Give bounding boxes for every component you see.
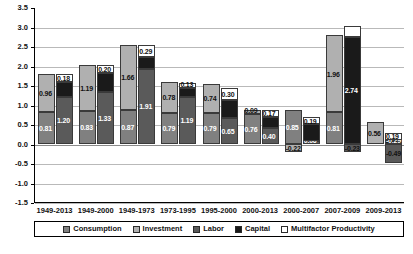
y-tick-mark <box>31 164 34 165</box>
bar-right: 0.650.30 <box>221 7 238 202</box>
data-label: 0.20 <box>98 66 111 73</box>
y-tick-label: 3.0 <box>0 24 28 32</box>
y-tick-label: 3.5 <box>0 4 28 12</box>
bar-left: 0.790.78 <box>161 7 178 202</box>
y-tick-mark <box>31 145 34 146</box>
legend-item[interactable]: Multifactor Productivity <box>281 225 375 233</box>
bar-left: 0.85-0.22 <box>285 7 302 202</box>
y-tick-label: -0.5 <box>0 160 28 168</box>
bar-right: 1.190.13 <box>179 7 196 202</box>
y-tick-label: 2.0 <box>0 63 28 71</box>
data-label: -0.22 <box>286 145 301 152</box>
y-tick-label: -1.5 <box>0 199 28 207</box>
data-label: 1.19 <box>180 117 193 124</box>
bar-left: 0.56 <box>367 7 384 202</box>
data-label: 0.30 <box>222 91 235 98</box>
bar-right: -0.49-0.290.19 <box>385 7 402 202</box>
data-label: 1.96 <box>327 71 340 78</box>
y-tick-label: 1.0 <box>0 102 28 110</box>
data-label: -0.49 <box>386 150 401 157</box>
data-label: -0.23 <box>345 145 360 152</box>
legend-item[interactable]: Consumption <box>63 225 121 233</box>
data-label: 0.85 <box>286 124 299 131</box>
y-tick-mark <box>31 47 34 48</box>
bar-segment-capital <box>303 124 320 141</box>
data-label: 0.18 <box>57 75 70 82</box>
y-tick-mark <box>31 203 34 204</box>
y-tick-mark <box>31 184 34 185</box>
data-label: 0.65 <box>222 128 235 135</box>
data-label: 0.13 <box>180 81 193 88</box>
data-label: 0.17 <box>263 110 276 117</box>
legend-label: Investment <box>143 225 183 233</box>
legend-swatch-icon <box>193 226 200 233</box>
y-tick-mark <box>31 106 34 107</box>
gridline <box>35 203 404 204</box>
plot-area: 0.810.961.200.180.831.191.330.200.871.66… <box>34 8 404 203</box>
y-tick-label: 0.5 <box>0 121 28 129</box>
bar-segment-capital <box>97 73 114 92</box>
data-label: 0.79 <box>162 125 175 132</box>
bar-right: -0.232.74 <box>344 7 361 202</box>
legend-swatch-icon <box>235 226 242 233</box>
bar-left: 0.871.66 <box>120 7 137 202</box>
bar-right: 1.330.20 <box>97 7 114 202</box>
chart-legend: ConsumptionInvestmentLaborCapitalMultifa… <box>34 221 404 237</box>
legend-label: Multifactor Productivity <box>291 225 375 233</box>
data-label: 0.81 <box>327 125 340 132</box>
data-label: 0.74 <box>204 95 217 102</box>
y-tick-label: 2.5 <box>0 43 28 51</box>
legend-label: Capital <box>245 225 270 233</box>
y-tick-mark <box>31 67 34 68</box>
legend-item[interactable]: Investment <box>133 225 183 233</box>
data-label: 0.40 <box>263 133 276 140</box>
data-label: 0.81 <box>39 125 52 132</box>
bar-right: 1.910.29 <box>138 7 155 202</box>
data-label: 0.29 <box>139 48 152 55</box>
data-label: 1.91 <box>139 103 152 110</box>
bar-left: 0.811.96 <box>326 7 343 202</box>
legend-swatch-icon <box>281 226 288 233</box>
chart-container: 0.810.961.200.180.831.191.330.200.871.66… <box>0 0 413 254</box>
bar-segment-capital <box>262 117 279 128</box>
y-tick-mark <box>31 125 34 126</box>
bar-left: 0.790.74 <box>203 7 220 202</box>
y-tick-mark <box>31 86 34 87</box>
legend-item[interactable]: Capital <box>235 225 270 233</box>
data-label: 0.19 <box>386 133 399 140</box>
bar-segment-capital <box>138 57 155 69</box>
data-label: 0.96 <box>39 90 52 97</box>
data-label: 0.83 <box>80 124 93 131</box>
data-label: 0.09 <box>245 107 258 114</box>
legend-label: Labor <box>203 225 224 233</box>
y-tick-label: 0.0 <box>0 141 28 149</box>
bar-left: 0.760.09 <box>244 7 261 202</box>
bar-segment-multifactor-productivity <box>344 26 361 37</box>
data-label: 1.66 <box>121 74 134 81</box>
data-label: 0.56 <box>368 130 381 137</box>
data-label: 1.19 <box>80 85 93 92</box>
bar-segment-capital <box>221 100 238 118</box>
y-tick-mark <box>31 8 34 9</box>
legend-swatch-icon <box>133 226 140 233</box>
legend-label: Consumption <box>73 225 121 233</box>
data-label: 0.78 <box>162 94 175 101</box>
x-tick-label: 2009-2013 <box>359 206 407 215</box>
data-label: 1.20 <box>57 117 70 124</box>
data-label: 0.87 <box>121 124 134 131</box>
bar-right: 0.060.19 <box>303 7 320 202</box>
bar-left: 0.810.96 <box>38 7 55 202</box>
bar-right: 1.200.18 <box>56 7 73 202</box>
data-label: 0.76 <box>245 126 258 133</box>
y-tick-label: -1.0 <box>0 180 28 188</box>
bar-segment-capital <box>179 88 196 97</box>
data-label: 2.74 <box>345 87 358 94</box>
bar-segment-capital <box>56 82 73 97</box>
y-tick-label: 1.5 <box>0 82 28 90</box>
y-tick-mark <box>31 28 34 29</box>
bar-right: 0.400.17 <box>262 7 279 202</box>
data-label: 0.19 <box>304 118 317 125</box>
legend-swatch-icon <box>63 226 70 233</box>
data-label: 1.33 <box>98 115 111 122</box>
legend-item[interactable]: Labor <box>193 225 224 233</box>
